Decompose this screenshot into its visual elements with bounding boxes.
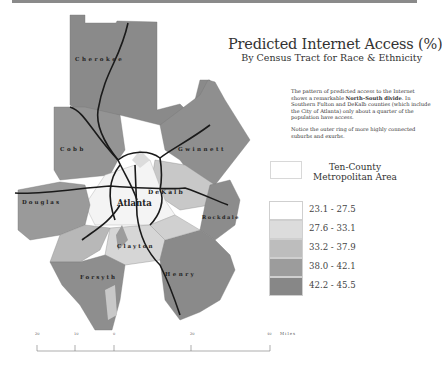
description: The pattern of predicted access to the I…	[291, 88, 431, 144]
label-gwinnett: Gwinnett	[178, 146, 226, 152]
description-paragraph-1: The pattern of predicted access to the I…	[291, 88, 431, 121]
legend-swatch	[269, 220, 303, 239]
map-subtitle: By Census Tract for Race & Ethnicity	[222, 52, 422, 63]
legend-item: 23.1 - 27.5	[269, 201, 419, 220]
scale-bar-line	[0, 330, 330, 360]
county-cobb	[54, 107, 125, 180]
label-rockdale: Rockdale	[202, 214, 240, 220]
legend-swatch	[269, 258, 303, 277]
label-atlanta: Atlanta	[116, 198, 152, 208]
legend-swatch	[269, 201, 303, 220]
legend-item: 33.2 - 37.9	[269, 239, 419, 258]
area-legend-label: Ten-County Metropolitan Area	[300, 162, 410, 182]
map-title: Predicted Internet Access (%)	[228, 36, 428, 52]
label-henry: Henry	[165, 271, 196, 278]
label-cobb: Cobb	[60, 146, 86, 152]
label-douglas: Douglas	[22, 199, 61, 206]
label-clayton: Clayton	[117, 243, 154, 250]
label-dekalb: DeKalb	[148, 188, 185, 195]
legend-item: 38.0 - 42.1	[269, 258, 419, 277]
legend-item: 27.6 - 33.1	[269, 220, 419, 239]
legend-swatch	[269, 277, 303, 296]
scale-bar: 20 10 0 20 40 Miles	[0, 330, 330, 360]
label-cherokee: Cherokee	[75, 56, 124, 62]
description-paragraph-2: Notice the outer ring of more highly con…	[291, 126, 431, 139]
label-forsyth: Forsyth	[80, 274, 117, 281]
legend-item: 42.2 - 45.5	[269, 277, 419, 296]
area-legend-swatch	[270, 161, 302, 179]
legend-swatch	[269, 239, 303, 258]
legend: 23.1 - 27.5 27.6 - 33.1 33.2 - 37.9 38.0…	[269, 201, 419, 296]
